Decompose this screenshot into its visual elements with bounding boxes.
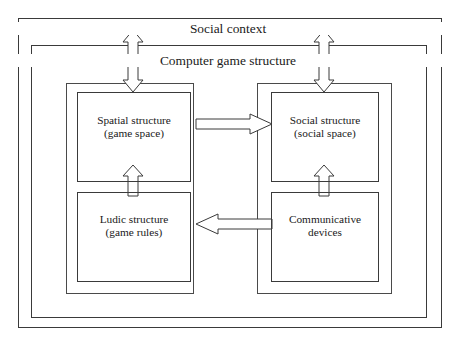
connector-layer [0,0,456,343]
node-communicative-devices-label: Communicative devices [289,193,361,281]
arrow-comm-to-ludic [196,214,272,234]
arrow-spatial-to-social [196,114,272,134]
label-social-context-text: Social context [184,22,272,35]
node-spatial-structure: Spatial structure (game space) [77,92,191,182]
node-communicative-devices: Communicative devices [271,192,379,282]
node-ludic-structure-label: Ludic structure (game rules) [100,193,169,281]
label-computer-game-structure: Computer game structure [0,54,456,67]
diagram-canvas: Social context Computer game structure S… [0,0,456,343]
node-ludic-structure: Ludic structure (game rules) [77,192,191,282]
node-social-structure: Social structure (social space) [271,92,379,182]
label-social-context: Social context [0,22,456,35]
label-computer-game-structure-text: Computer game structure [154,54,302,67]
node-social-structure-label: Social structure (social space) [290,93,361,181]
node-spatial-structure-label: Spatial structure (game space) [97,93,171,181]
